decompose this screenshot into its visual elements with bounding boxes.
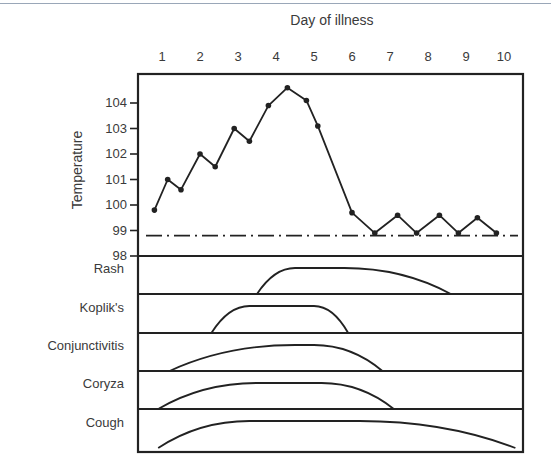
- y-tick-label: 100: [105, 197, 127, 212]
- row-label: Conjunctivitis: [47, 338, 124, 353]
- temperature-point: [456, 230, 462, 236]
- temperature-point: [494, 230, 500, 236]
- y-axis-title: Temperature: [69, 130, 85, 209]
- symptom-curve-rash: [257, 268, 451, 294]
- x-tick-label: 5: [310, 49, 317, 64]
- symptom-curve-coryza: [158, 383, 394, 409]
- symptom-curve-cough: [158, 421, 515, 448]
- temperature-point: [437, 212, 443, 218]
- x-tick-label: 6: [348, 49, 355, 64]
- x-tick-label: 9: [462, 49, 469, 64]
- temperature-point: [414, 230, 420, 236]
- temperature-point: [165, 177, 171, 183]
- temperature-point: [266, 103, 272, 109]
- temperature-point: [212, 164, 218, 170]
- x-tick-label: 1: [158, 49, 165, 64]
- x-tick-label: 7: [386, 49, 393, 64]
- y-tick-label: 102: [105, 146, 127, 161]
- temperature-line: [154, 88, 496, 233]
- temperature-point: [304, 98, 310, 104]
- symptom-curve-kopliks: [211, 306, 348, 333]
- temperature-point: [285, 85, 291, 91]
- y-tick-label: 99: [113, 223, 127, 238]
- temperature-point: [475, 215, 481, 221]
- symptom-curve-conjunctivitis: [170, 345, 383, 371]
- temperature-point: [349, 210, 355, 216]
- x-axis-title: Day of illness: [290, 12, 373, 28]
- row-label: Cough: [86, 415, 124, 430]
- x-tick-label: 4: [272, 49, 279, 64]
- x-tick-label: 8: [424, 49, 431, 64]
- plot-frame: [138, 74, 523, 452]
- temperature-point: [197, 151, 203, 157]
- row-label: Rash: [94, 261, 124, 276]
- x-tick-label: 2: [196, 49, 203, 64]
- y-tick-label: 104: [105, 95, 127, 110]
- temperature-point: [315, 123, 321, 129]
- temperature-point: [231, 126, 237, 132]
- temperature-point: [372, 230, 378, 236]
- measles-chart: Day of illness12345678910104103102101100…: [0, 0, 551, 474]
- row-label: Coryza: [83, 376, 125, 391]
- row-label: Koplik's: [80, 300, 125, 315]
- temperature-point: [178, 187, 184, 193]
- temperature-point: [247, 138, 253, 144]
- x-tick-label: 3: [234, 49, 241, 64]
- x-tick-label: 10: [497, 49, 511, 64]
- y-tick-label: 101: [105, 172, 127, 187]
- temperature-point: [395, 212, 401, 218]
- y-tick-label: 103: [105, 121, 127, 136]
- temperature-point: [152, 207, 158, 213]
